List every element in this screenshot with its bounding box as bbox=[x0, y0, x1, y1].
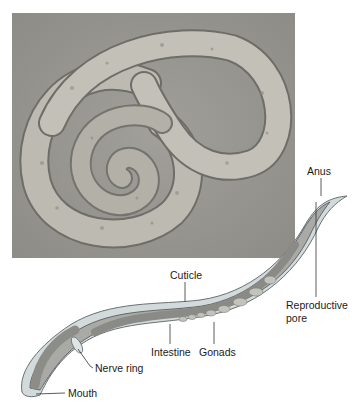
label-reproductive-pore-line1: Reproductive bbox=[286, 299, 348, 311]
label-gonads: Gonads bbox=[199, 346, 236, 358]
label-mouth: Mouth bbox=[68, 387, 97, 399]
label-anus: Anus bbox=[307, 165, 331, 177]
label-nerve-ring: Nerve ring bbox=[95, 362, 143, 374]
label-intestine: Intestine bbox=[151, 346, 191, 358]
cuticle-shape bbox=[22, 196, 347, 397]
nerve-ring-leader-line bbox=[78, 349, 93, 368]
label-reproductive-pore-line2: pore bbox=[286, 312, 307, 324]
label-cuticle: Cuticle bbox=[170, 269, 202, 281]
body-interior bbox=[30, 202, 330, 390]
